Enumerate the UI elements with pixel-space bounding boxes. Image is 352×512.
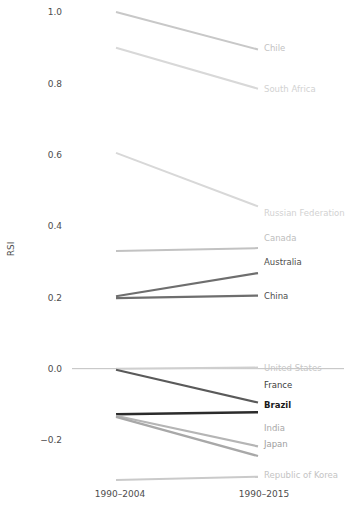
series-line [116, 48, 258, 89]
series-label: Republic of Korea [264, 470, 338, 480]
series-line [116, 416, 258, 447]
series-label: South Africa [264, 84, 316, 94]
series-label: India [264, 423, 285, 433]
x-tick-label: 1990–2004 [95, 489, 146, 499]
x-tick-label: 1990–2015 [239, 489, 289, 499]
series-labels: ChileSouth AfricaRussian FederationCanad… [263, 43, 345, 480]
series-label: Japan [263, 439, 288, 449]
series-line [116, 12, 258, 49]
series-line [116, 412, 258, 414]
y-tick-label: 0.2 [48, 293, 62, 303]
y-tick-label: 0.0 [48, 364, 63, 374]
series-label: Canada [264, 233, 296, 243]
slope-chart: 1.00.80.60.40.20.0−0.2 ChileSouth Africa… [0, 0, 352, 512]
series-label: Australia [264, 257, 302, 267]
chart-svg: 1.00.80.60.40.20.0−0.2 ChileSouth Africa… [0, 0, 352, 512]
y-tick-label: −0.2 [40, 435, 62, 445]
series-line [116, 153, 258, 207]
series-line [116, 248, 258, 251]
series-line [116, 273, 258, 296]
series-label: Chile [264, 43, 285, 53]
series-line [116, 417, 258, 456]
series-line [116, 368, 258, 369]
series-label: Brazil [264, 400, 291, 410]
x-axis-tick-labels: 1990–20041990–2015 [95, 489, 289, 499]
series-lines [116, 12, 258, 480]
series-line [116, 477, 258, 480]
y-tick-label: 0.4 [48, 221, 63, 231]
y-tick-label: 0.8 [48, 79, 63, 89]
y-axis-title: RSI [6, 242, 16, 257]
series-line [116, 370, 258, 403]
series-label: France [264, 380, 292, 390]
series-label: Russian Federation [264, 208, 345, 218]
y-tick-label: 0.6 [48, 150, 63, 160]
y-axis-tick-labels: 1.00.80.60.40.20.0−0.2 [40, 7, 62, 445]
series-line [116, 296, 258, 298]
series-label: China [264, 291, 288, 301]
series-label: United States [264, 363, 322, 373]
y-tick-label: 1.0 [48, 7, 63, 17]
